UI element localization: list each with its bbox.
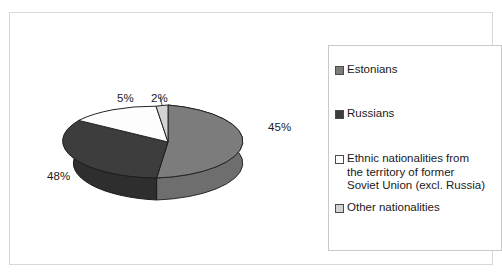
data-label-estonians: 45% (268, 121, 291, 133)
data-label-ethnic-nationalities: 5% (117, 92, 134, 104)
legend-swatch-icon (335, 66, 344, 75)
legend-item-estonians[interactable]: Estonians (335, 63, 398, 77)
legend-item-ethnic-nationalities[interactable]: Ethnic nationalities from the territory … (335, 152, 485, 193)
legend: Estonians Russians Ethnic nationalities … (328, 45, 502, 251)
pie-top-face (63, 105, 243, 178)
data-label-russians: 48% (47, 170, 70, 182)
legend-swatch-icon (335, 155, 344, 164)
legend-item-label: Russians (347, 107, 394, 121)
chart-frame: 45% 48% 5% 2% Estonians Russians Ethnic … (9, 12, 493, 265)
legend-swatch-icon (335, 110, 344, 119)
legend-item-label: Other nationalities (347, 201, 440, 215)
data-label-other-nationalities: 2% (151, 92, 168, 104)
legend-item-russians[interactable]: Russians (335, 107, 394, 121)
pie-chart-graphic (10, 13, 320, 266)
legend-swatch-icon (335, 204, 344, 213)
legend-item-other-nationalities[interactable]: Other nationalities (335, 201, 440, 215)
legend-item-label: Estonians (347, 63, 398, 77)
screenshot-root: 45% 48% 5% 2% Estonians Russians Ethnic … (0, 0, 502, 279)
pie-chart-area: 45% 48% 5% 2% (10, 13, 320, 266)
legend-item-label: Ethnic nationalities from the territory … (347, 152, 485, 193)
